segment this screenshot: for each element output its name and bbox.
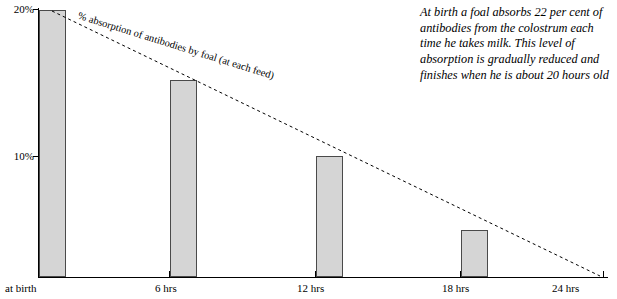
x-tick-mark-12-hrs: [315, 271, 316, 278]
x-axis-label-18-hrs: 18 hrs: [442, 282, 469, 294]
bar-18-hrs: [461, 230, 488, 277]
bar-6-hrs: [170, 80, 197, 277]
x-axis-label-6-hrs: 6 hrs: [155, 282, 177, 294]
x-tick-mark-at-birth: [38, 271, 39, 278]
bar-at-birth: [39, 10, 66, 277]
x-axis-label-12-hrs: 12 hrs: [297, 282, 324, 294]
x-tick-mark-18-hrs: [460, 271, 461, 278]
y-axis-label-20: 20%: [0, 3, 34, 15]
x-tick-mark-6-hrs: [169, 271, 170, 278]
y-axis-label-10: 10%: [0, 150, 34, 162]
chart-figure: 20% 10% % absorption of antibodies by fo…: [0, 0, 617, 299]
x-axis-label-24-hrs: 24 hrs: [552, 282, 579, 294]
bar-12-hrs: [316, 156, 343, 277]
series-label: % absorption of antibodies by foal (at e…: [77, 10, 276, 81]
x-tick-mark-24-hrs: [603, 271, 604, 278]
annotation-text: At birth a foal absorbs 22 per cent of a…: [420, 5, 610, 84]
x-axis-label-at-birth: at birth: [5, 282, 36, 294]
x-axis: [38, 277, 608, 278]
